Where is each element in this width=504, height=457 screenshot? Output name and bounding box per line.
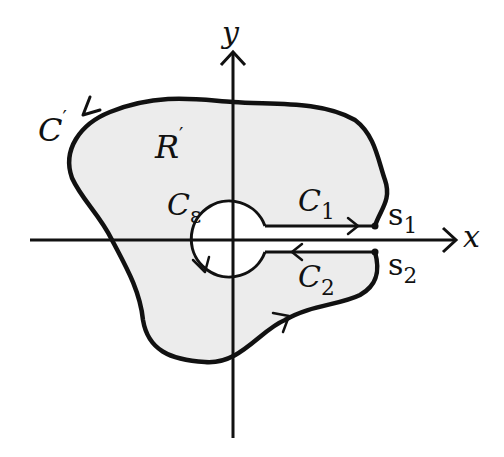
c2-label: C2 <box>298 262 335 298</box>
point-s2 <box>372 249 379 256</box>
c1-subscript: 1 <box>321 199 335 224</box>
s1-subscript: 1 <box>403 213 417 238</box>
diagram-canvas <box>0 0 504 457</box>
c-epsilon-base: C <box>167 187 190 222</box>
x-axis-label: x <box>463 222 480 252</box>
r-prime-base: R <box>155 128 179 166</box>
r-prime-mark: ′ <box>179 123 183 146</box>
y-axis-label: y <box>222 18 239 48</box>
c1-label: C1 <box>298 186 335 222</box>
c-prime-direction-arrow-icon <box>83 97 100 115</box>
c1-base: C <box>298 183 321 218</box>
c-prime-base: C <box>38 111 62 149</box>
c-prime-mark: ′ <box>62 106 66 129</box>
contour-diagram: y x C′ R′ Cε C1 C2 s1 s2 <box>0 0 504 457</box>
c-prime-label: C′ <box>38 108 67 146</box>
s1-base: s <box>388 197 403 232</box>
s2-label: s2 <box>388 250 417 286</box>
point-s1 <box>372 223 379 230</box>
s2-base: s <box>388 247 403 282</box>
c-epsilon-subscript: ε <box>190 203 201 228</box>
c2-base: C <box>298 259 321 294</box>
s1-label: s1 <box>388 200 417 236</box>
r-prime-label: R′ <box>155 125 183 163</box>
s2-subscript: 2 <box>403 263 417 288</box>
c-epsilon-label: Cε <box>167 190 201 226</box>
c2-subscript: 2 <box>321 275 335 300</box>
